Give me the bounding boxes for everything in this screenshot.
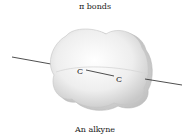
alkyne-pi-bond-diagram: C C <box>0 0 190 139</box>
diagram-caption: An alkyne <box>0 125 190 134</box>
carbon-atom-2: C <box>116 75 122 84</box>
pi-cloud-front <box>50 29 148 107</box>
carbon-atom-1: C <box>77 67 83 76</box>
